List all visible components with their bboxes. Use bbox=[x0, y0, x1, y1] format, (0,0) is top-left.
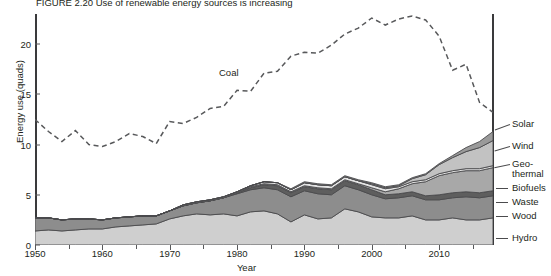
legend-leader-hydro bbox=[496, 238, 508, 239]
x-tick-mark-1950 bbox=[35, 245, 36, 250]
legend-label-waste: Waste bbox=[512, 197, 539, 208]
x-tick-minor-1965 bbox=[136, 245, 137, 249]
y-tick-mark-0 bbox=[35, 245, 40, 246]
x-tick-mark-2000 bbox=[372, 245, 373, 250]
x-tick-mark-1990 bbox=[304, 245, 305, 250]
legend-label-hydro: Hydro bbox=[512, 233, 537, 244]
legend-label-geothermal_2: thermal bbox=[512, 169, 544, 180]
x-tick-minor-1975 bbox=[203, 245, 204, 249]
y-tick-mark-20 bbox=[35, 44, 40, 45]
legend-leader-wood bbox=[496, 216, 508, 217]
plot-area bbox=[35, 14, 493, 245]
chart-svg bbox=[35, 14, 493, 245]
x-tick-minor-1995 bbox=[338, 245, 339, 249]
y-tick-mark-15 bbox=[35, 94, 40, 95]
legend-leader-biofuels bbox=[496, 188, 508, 189]
legend-label-wind: Wind bbox=[512, 141, 534, 152]
coal-series-label: Coal bbox=[219, 67, 239, 78]
x-tick-minor-1985 bbox=[271, 245, 272, 249]
legend-label-wood: Wood bbox=[512, 211, 537, 222]
figure-renewable-energy: FIGURE 2.20 Use of renewable energy sour… bbox=[0, 0, 551, 276]
x-tick-mark-1980 bbox=[237, 245, 238, 250]
x-tick-mark-1960 bbox=[102, 245, 103, 250]
y-tick-mark-10 bbox=[35, 144, 40, 145]
legend-label-biofuels: Biofuels bbox=[512, 183, 546, 194]
x-tick-minor-2005 bbox=[405, 245, 406, 249]
x-tick-mark-2010 bbox=[439, 245, 440, 250]
coal-dashed-line bbox=[35, 16, 493, 147]
legend-label-solar: Solar bbox=[512, 119, 534, 130]
x-tick-minor-2015 bbox=[473, 245, 474, 249]
y-tick-mark-5 bbox=[35, 194, 40, 195]
legend-leader-waste bbox=[496, 202, 508, 203]
x-tick-mark-1970 bbox=[170, 245, 171, 250]
x-tick-minor-1955 bbox=[69, 245, 70, 249]
